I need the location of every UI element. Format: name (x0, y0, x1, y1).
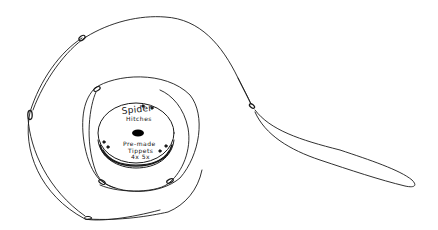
sketch-canvas: Spider Hitches Pre-made Tippets 4x 5x (0, 0, 438, 230)
outer-line-left-strand-b (33, 37, 86, 110)
spool-label-line5: 4x 5x (131, 153, 150, 160)
knot-icon (249, 103, 256, 109)
inner-line-ring-inner (89, 92, 115, 188)
outer-line-left-strand-c (28, 118, 85, 216)
spool-hole-icon (107, 146, 109, 148)
spool-label-line2: Hitches (126, 115, 152, 122)
spool-label-line3: Pre-made (123, 140, 156, 147)
spool-hole-icon (165, 145, 167, 147)
outer-line-loop (86, 17, 251, 104)
outer-line-left-strand-a (28, 38, 160, 220)
outer-line-bottom (88, 170, 202, 219)
line-tail (238, 78, 251, 104)
spool-hole-icon (159, 150, 161, 152)
end-loop-upper (255, 110, 415, 187)
spool-hole-icon (103, 141, 105, 143)
spool-center-hole-icon (132, 130, 144, 137)
knot-icon (93, 86, 101, 93)
knot-icon (85, 216, 92, 219)
